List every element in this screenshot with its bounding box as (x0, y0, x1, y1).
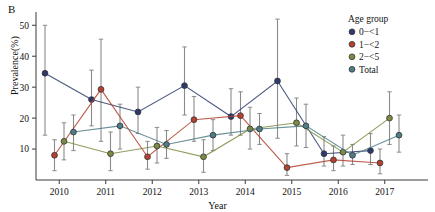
data-point (396, 132, 402, 138)
data-point (387, 115, 393, 121)
legend-label: 0−<1 (359, 27, 379, 37)
data-point (182, 83, 188, 89)
data-point (108, 151, 114, 157)
data-point (191, 117, 197, 123)
data-point (71, 129, 77, 135)
data-point (42, 70, 48, 76)
y-tick-label: 10 (20, 144, 30, 154)
data-point (154, 143, 160, 149)
x-tick-label: 2015 (282, 187, 301, 197)
legend-label: 2−<5 (359, 52, 379, 62)
legend-title: Age group (348, 14, 389, 24)
data-point (52, 152, 58, 158)
data-point (164, 142, 170, 148)
figure-panel: B Prevalence(%) Year 1020304050201020112… (0, 0, 435, 212)
x-tick-label: 2010 (50, 187, 69, 197)
prevalence-line-chart: 1020304050201020112012201320142015201620… (0, 0, 435, 212)
y-tick-label: 30 (20, 83, 30, 93)
data-point (201, 154, 207, 160)
data-point (117, 123, 123, 129)
data-point (377, 160, 383, 166)
x-tick-label: 2012 (143, 187, 162, 197)
data-point (98, 86, 104, 92)
data-point (294, 120, 300, 126)
error-bar (43, 25, 47, 135)
y-tick-label: 20 (20, 114, 30, 124)
legend-marker (349, 41, 355, 47)
series-line (45, 73, 371, 153)
y-tick-label: 40 (20, 52, 30, 62)
data-point (275, 78, 281, 84)
data-point (321, 151, 327, 157)
error-bar (229, 89, 233, 135)
legend-marker (349, 66, 355, 72)
data-point (135, 109, 141, 115)
data-point (238, 113, 244, 119)
x-tick-label: 2011 (96, 187, 115, 197)
legend-marker (349, 29, 355, 35)
x-tick-label: 2013 (189, 187, 208, 197)
series-line (74, 126, 400, 155)
legend-label: 1−<2 (359, 40, 379, 50)
data-point (145, 154, 151, 160)
data-point (210, 132, 216, 138)
y-tick-label: 50 (20, 21, 30, 31)
x-tick-label: 2014 (236, 187, 255, 197)
legend-label: Total (359, 65, 379, 75)
x-tick-label: 2017 (375, 187, 394, 197)
error-bar (182, 47, 186, 115)
data-point (331, 157, 337, 163)
data-point (350, 152, 356, 158)
data-point (303, 123, 309, 129)
legend-marker (349, 54, 355, 60)
x-tick-label: 2016 (329, 187, 348, 197)
data-point (61, 138, 67, 144)
data-point (257, 126, 263, 132)
data-point (284, 165, 290, 171)
